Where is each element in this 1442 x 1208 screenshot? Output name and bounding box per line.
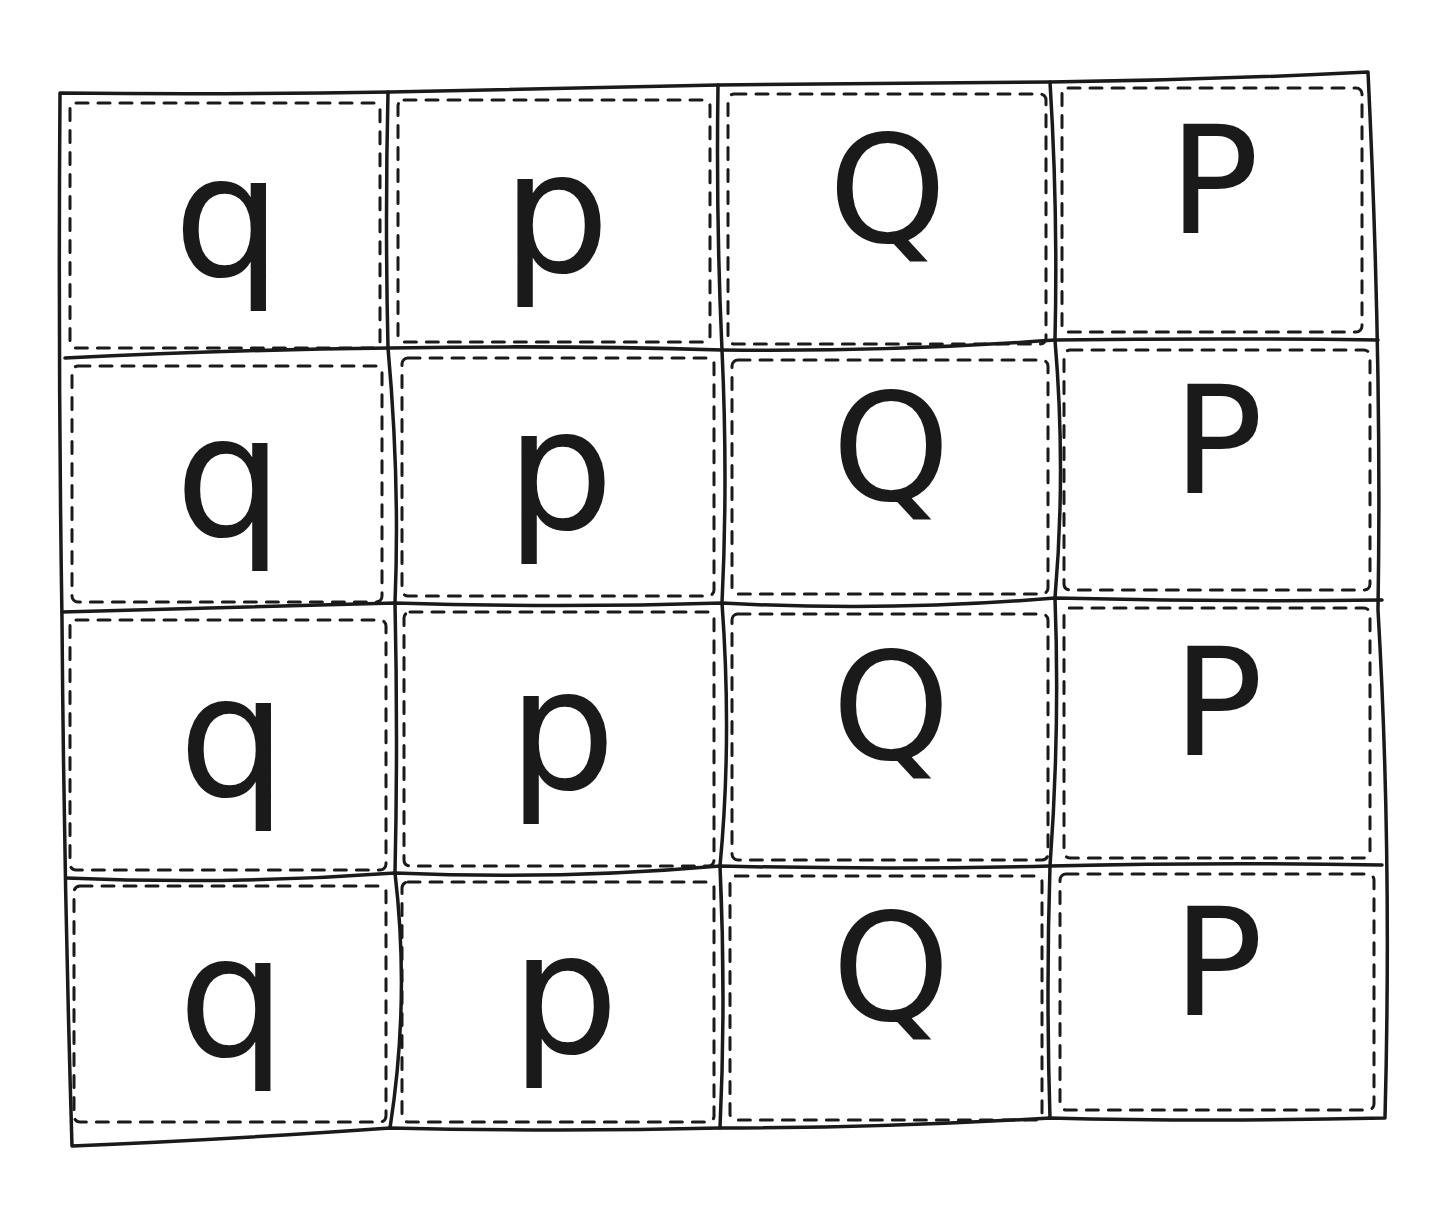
letter-p-lower: p bbox=[506, 385, 614, 555]
letter-p-upper: P bbox=[1173, 366, 1263, 516]
quilt-cell: P bbox=[1058, 870, 1378, 1115]
quilt-cell: Q bbox=[730, 356, 1052, 600]
quilt-cell: P bbox=[1060, 346, 1376, 596]
quilt-cell: Q bbox=[732, 872, 1050, 1124]
quilt-cell: p bbox=[405, 878, 725, 1126]
quilt-cell: q bbox=[70, 100, 385, 350]
letter-q-lower: q bbox=[174, 132, 282, 302]
letter-p-upper: P bbox=[1173, 888, 1263, 1038]
letter-q-lower: q bbox=[178, 912, 286, 1082]
letter-q-upper: Q bbox=[832, 632, 950, 782]
letter-p-upper: P bbox=[1169, 106, 1259, 256]
quilt-cell: p bbox=[395, 96, 717, 346]
letter-quilt-worksheet: q p Q P q p Q P q p Q P q p Q P bbox=[0, 0, 1442, 1208]
letter-p-lower: p bbox=[502, 128, 610, 298]
quilt-cell: p bbox=[402, 608, 722, 868]
letter-p-lower: p bbox=[508, 645, 616, 815]
quilt-cell: q bbox=[72, 882, 392, 1127]
letter-q-lower: q bbox=[179, 652, 287, 822]
quilt-cell: p bbox=[400, 354, 720, 602]
letter-p-upper: P bbox=[1173, 628, 1263, 778]
quilt-cell: P bbox=[1060, 604, 1376, 862]
letter-q-upper: Q bbox=[832, 373, 950, 523]
letter-q-upper: Q bbox=[832, 893, 950, 1043]
quilt-cell: Q bbox=[730, 610, 1052, 864]
quilt-cell: Q bbox=[725, 92, 1050, 347]
quilt-cell: q bbox=[70, 616, 395, 874]
letter-p-lower: p bbox=[511, 909, 619, 1079]
quilt-cell: P bbox=[1058, 86, 1370, 336]
quilt-cell: q bbox=[70, 362, 388, 607]
letter-q-upper: Q bbox=[828, 115, 946, 265]
letter-q-lower: q bbox=[175, 392, 283, 562]
